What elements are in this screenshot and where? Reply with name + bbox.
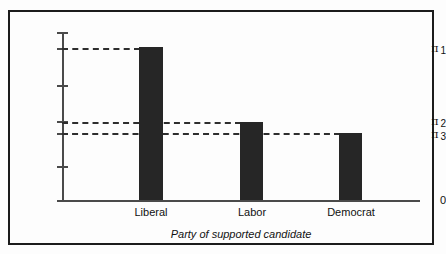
plot-area: π1 π2 π3 0 Liberal Labor Democrat Party … (0, 0, 446, 254)
pi-subscript: 1 (438, 45, 446, 56)
y-axis-label-pi3: π3 (390, 129, 446, 140)
y-tick-mid-lower (57, 166, 68, 168)
y-axis-top-cap (57, 32, 68, 34)
y-axis-label-pi2: π2 (390, 116, 446, 127)
x-axis-line (62, 200, 420, 202)
x-label-liberal: Liberal (111, 206, 191, 218)
x-label-democrat: Democrat (311, 206, 391, 218)
bar-democrat (339, 133, 362, 200)
pi-subscript: 3 (438, 131, 446, 142)
y-tick-zero (57, 200, 68, 202)
chart-figure: π1 π2 π3 0 Liberal Labor Democrat Party … (0, 0, 446, 254)
y-axis-label-pi1: π1 (390, 43, 446, 54)
reference-line-pi1 (62, 48, 140, 50)
y-axis-line (62, 32, 64, 201)
pi-subscript: 2 (438, 118, 446, 129)
x-label-labor: Labor (212, 206, 292, 218)
bar-liberal (139, 47, 163, 200)
x-axis-title: Party of supported candidate (62, 228, 420, 240)
bar-labor (240, 122, 263, 200)
y-axis-label-zero: 0 (392, 195, 446, 206)
reference-line-pi3 (62, 133, 340, 135)
y-tick-mid-upper (57, 85, 68, 87)
